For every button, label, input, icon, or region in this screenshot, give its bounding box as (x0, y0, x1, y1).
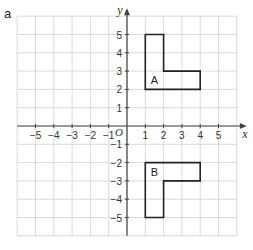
y-axis-arrow-icon (124, 8, 130, 15)
y-tick-label: 5 (116, 30, 122, 41)
x-tick-label: 3 (179, 130, 185, 141)
y-tick-label: 1 (116, 103, 122, 114)
x-tick-label: 5 (216, 130, 222, 141)
x-tick-label: −3 (66, 130, 78, 141)
tick-labels: −5−4−3−2−11234554321−1−2−3−4−5Oxy (30, 3, 248, 223)
y-tick-label: 3 (116, 66, 122, 77)
y-tick-label: −3 (111, 176, 123, 187)
x-tick-label: −2 (85, 130, 97, 141)
y-tick-label: −1 (111, 139, 123, 150)
shape-label-b: B (151, 166, 158, 178)
x-tick-label: 1 (143, 130, 149, 141)
x-tick-label: 2 (161, 130, 167, 141)
x-axis-label: x (241, 127, 248, 141)
y-tick-label: 4 (116, 48, 122, 59)
x-tick-label: −4 (48, 130, 60, 141)
x-tick-label: 4 (197, 130, 203, 141)
axes (17, 8, 247, 236)
y-tick-label: −4 (111, 194, 123, 205)
y-axis-label: y (116, 3, 123, 17)
x-tick-label: −5 (30, 130, 42, 141)
coordinate-grid: −5−4−3−2−11234554321−1−2−3−4−5Oxy AB (0, 0, 253, 250)
y-tick-label: −5 (111, 213, 123, 224)
y-tick-label: −2 (111, 158, 123, 169)
origin-label: O (115, 126, 123, 138)
shape-label-a: A (151, 74, 159, 86)
y-tick-label: 2 (116, 84, 122, 95)
